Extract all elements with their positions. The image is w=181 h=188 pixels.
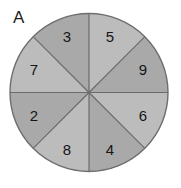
spinner-figure: A 59648273 [0,0,181,188]
sector-label-2: 2 [30,107,38,124]
divider-group [10,14,168,172]
sector-label-6: 6 [139,107,147,124]
sector-label-4: 4 [106,141,114,158]
sector-label-8: 8 [63,141,71,158]
sector-label-5: 5 [106,28,114,45]
sector-label-3: 3 [63,28,71,45]
spinner-wheel[interactable]: 59648273 [0,0,181,188]
sector-label-9: 9 [139,61,147,78]
sector-label-7: 7 [30,61,38,78]
